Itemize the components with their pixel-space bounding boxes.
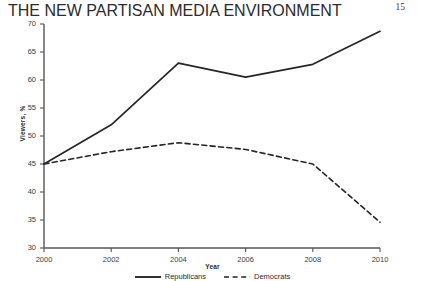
x-axis-label: Year (0, 263, 425, 270)
y-tick-label: 45 (12, 159, 36, 168)
y-tick-label: 70 (12, 19, 36, 28)
series-layer (44, 31, 380, 222)
legend-swatch-republicans (135, 273, 161, 281)
chart-canvas (0, 16, 425, 279)
series-line-democrats (44, 143, 380, 223)
figure-line-chart: 303540455055606570 200020022004200620082… (0, 16, 425, 279)
legend-swatch-democrats (224, 273, 250, 281)
series-line-republicans (44, 31, 380, 164)
legend-entry: Republicans (135, 272, 206, 281)
y-axis-label: Viewers, % (19, 94, 26, 154)
page-number: 15 (396, 2, 406, 12)
y-tick-label: 65 (12, 47, 36, 56)
y-tick-label: 35 (12, 215, 36, 224)
y-tick-label: 60 (12, 75, 36, 84)
y-tick-label: 30 (12, 243, 36, 252)
legend-label: Republicans (165, 272, 206, 281)
chart-legend: RepublicansDemocrats (0, 272, 425, 281)
y-tick-label: 40 (12, 187, 36, 196)
legend-entry: Democrats (224, 272, 290, 281)
legend-label: Democrats (254, 272, 290, 281)
running-head: THE NEW PARTISAN MEDIA ENVIRONMENT 15 (8, 2, 417, 16)
